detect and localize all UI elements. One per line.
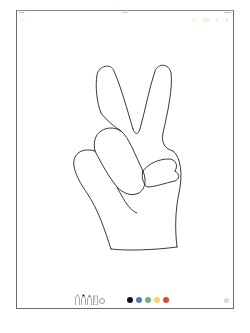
ipad-screen: iPad 9:41 100% ‹ ⁝⁝ ⚇ ⌫ ⇪ ✎	[16, 10, 234, 309]
tool-palette	[75, 293, 105, 305]
ruler-tool[interactable]	[93, 294, 98, 305]
nav-actions: ⚇ ⌫ ⇪ ✎	[192, 17, 229, 23]
peace-hand-drawing	[17, 25, 235, 295]
ruler-icon	[93, 294, 98, 305]
marker-tool[interactable]	[81, 294, 86, 305]
color-red[interactable]	[163, 297, 169, 303]
drawing-canvas[interactable]	[17, 25, 233, 295]
lasso-tool[interactable]	[99, 298, 105, 304]
pen-tool[interactable]	[75, 294, 80, 305]
color-yellow[interactable]	[154, 297, 160, 303]
back-button[interactable]: ‹ ⁝⁝	[20, 17, 24, 22]
markup-toolbar	[17, 292, 233, 308]
pencil-tool[interactable]	[87, 294, 92, 305]
color-black[interactable]	[127, 297, 133, 303]
pencil-icon	[87, 294, 92, 305]
compose-icon[interactable]: ✎	[225, 17, 229, 23]
color-palette	[127, 297, 169, 303]
pen-icon	[75, 294, 80, 305]
color-blue[interactable]	[136, 297, 142, 303]
more-options-button[interactable]	[224, 298, 229, 303]
trash-icon[interactable]: ⌫	[202, 17, 209, 23]
status-bar: iPad 9:41 100%	[17, 11, 233, 15]
marker-icon	[81, 294, 86, 305]
status-device: iPad	[19, 11, 24, 14]
status-battery: 100%	[225, 11, 231, 14]
status-time: 9:41	[123, 11, 128, 14]
share-icon[interactable]: ⇪	[215, 17, 219, 23]
add-people-icon[interactable]: ⚇	[192, 17, 196, 23]
nav-bar: ‹ ⁝⁝ ⚇ ⌫ ⇪ ✎	[17, 16, 233, 24]
color-green[interactable]	[145, 297, 151, 303]
